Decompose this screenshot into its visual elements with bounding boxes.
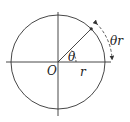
radius-label: r bbox=[80, 65, 87, 79]
diagram-canvas: O θ r θr bbox=[0, 0, 130, 122]
origin-label: O bbox=[47, 64, 57, 78]
arc-length-label: θr bbox=[110, 34, 124, 48]
angle-label: θ bbox=[68, 50, 76, 64]
arc-length-diagram: O θ r θr bbox=[0, 0, 130, 122]
point-on-circle bbox=[90, 27, 93, 30]
